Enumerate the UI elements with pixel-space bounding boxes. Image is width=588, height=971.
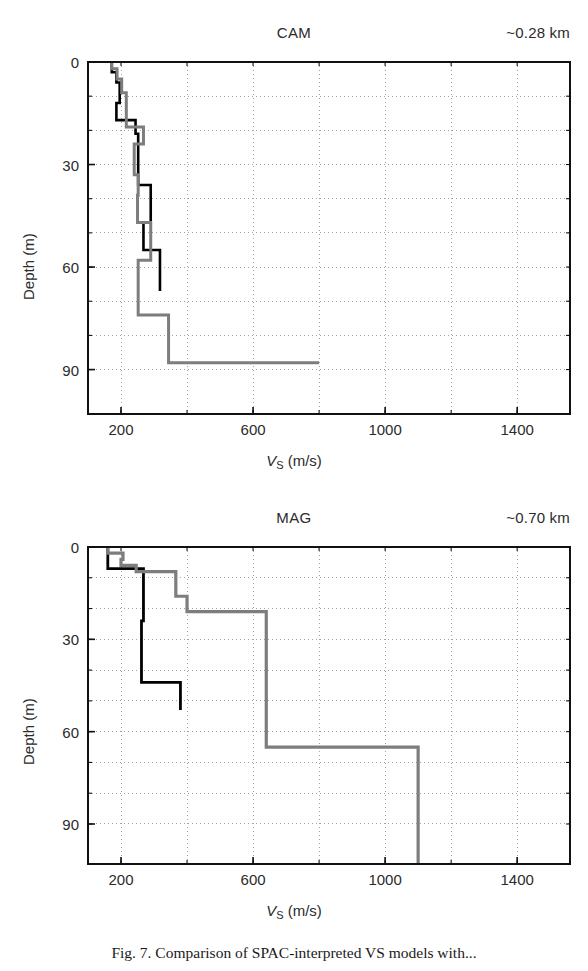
- y-tick-label: 0: [71, 54, 79, 71]
- y-tick-label: 0: [71, 539, 79, 556]
- series-gray-profile: [108, 547, 418, 864]
- x-tick-label: 1000: [368, 871, 401, 888]
- y-tick-label: 90: [62, 816, 79, 833]
- x-axis-title-symbol: V: [266, 902, 276, 919]
- x-axis-title-units: (m/s): [284, 902, 322, 919]
- x-tick-label: 1400: [500, 871, 533, 888]
- y-tick-label: 30: [62, 631, 79, 648]
- x-tick-label: 200: [108, 421, 133, 438]
- x-tick-label: 1000: [368, 421, 401, 438]
- y-tick-label: 60: [62, 259, 79, 276]
- x-tick-label: 1400: [500, 421, 533, 438]
- figure-caption: Fig. 7. Comparison of SPAC-interpreted V…: [0, 944, 588, 971]
- y-axis-title-mag: Depth (m): [20, 743, 37, 765]
- x-tick-label: 200: [108, 871, 133, 888]
- plot-panel-cam: CAM ~0.28 km 200600100014000306090 Depth…: [0, 0, 588, 485]
- y-tick-label: 30: [62, 157, 79, 174]
- panel-title-cam: CAM: [0, 24, 588, 41]
- x-axis-title-mag: VS (m/s): [0, 902, 588, 921]
- y-tick-label: 90: [62, 362, 79, 379]
- plot-frame: [88, 547, 570, 864]
- chart-svg-cam: 200600100014000306090: [0, 44, 588, 444]
- y-axis-title-cam: Depth (m): [20, 278, 37, 300]
- x-axis-title-units: (m/s): [284, 452, 322, 469]
- x-axis-title-subscript: S: [276, 909, 283, 921]
- panel-annotation-cam: ~0.28 km: [506, 24, 570, 41]
- plot-frame: [88, 62, 570, 414]
- x-axis-title-subscript: S: [276, 459, 283, 471]
- y-tick-label: 60: [62, 724, 79, 741]
- x-axis-title-cam: VS (m/s): [0, 452, 588, 471]
- panel-title-mag: MAG: [0, 509, 588, 526]
- chart-svg-mag: 200600100014000306090: [0, 529, 588, 909]
- figure-caption-label: Fig. 7.: [111, 944, 151, 961]
- figure-caption-text: Comparison of SPAC-interpreted VS models…: [155, 944, 476, 961]
- panel-annotation-mag: ~0.70 km: [506, 509, 570, 526]
- x-tick-label: 600: [241, 421, 266, 438]
- plot-panel-mag: MAG ~0.70 km 200600100014000306090 Depth…: [0, 485, 588, 935]
- x-axis-title-symbol: V: [266, 452, 276, 469]
- series-gray-profile: [112, 62, 319, 363]
- figure-container: CAM ~0.28 km 200600100014000306090 Depth…: [0, 0, 588, 971]
- x-tick-label: 600: [241, 871, 266, 888]
